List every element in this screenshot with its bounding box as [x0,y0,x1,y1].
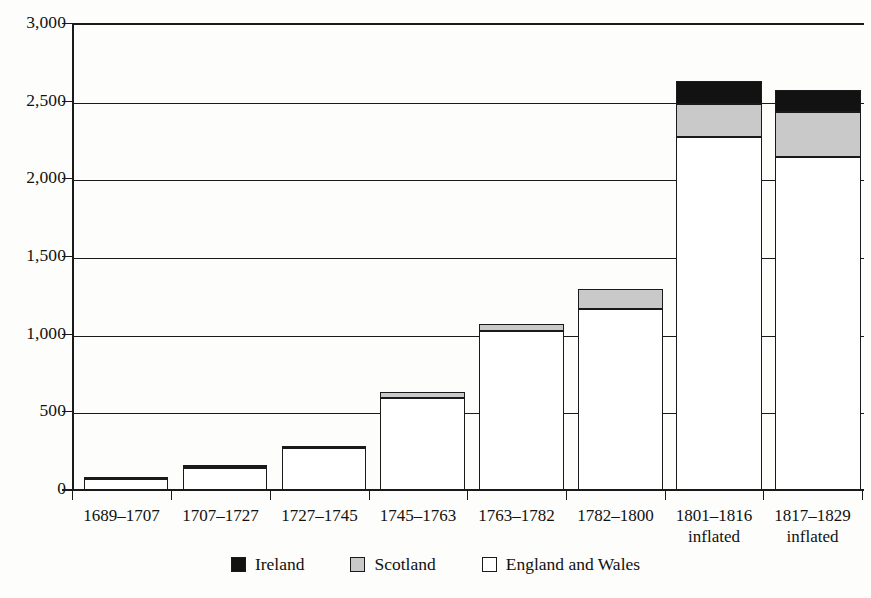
x-tick-label-1689-1707: 1689–1707 [72,505,171,526]
bar-segment-ireland [676,81,762,104]
legend-label-england-and-wales: England and Wales [506,556,640,574]
x-tick-label-1782-1800: 1782–1800 [566,505,665,526]
legend-item-ireland: Ireland [231,556,305,574]
x-tick-label-line1: 1763–1782 [478,506,555,525]
x-tick-label-line1: 1689–1707 [83,506,160,525]
bar-segment-ireland [775,90,861,112]
bar-segment-england-and-wales [380,398,465,491]
x-tick-label-line1: 1727–1745 [281,506,358,525]
y-tick-label-0: 0 [4,480,66,498]
bar-1782-1800 [578,289,663,491]
x-tick-label-line1: 1707–1727 [182,506,259,525]
chart-legend: Ireland Scotland England and Wales [0,556,871,574]
plot-area [72,23,864,491]
x-tick-mark-1 [171,489,172,500]
black-square-swatch-icon [231,557,246,572]
x-axis-line [62,489,864,491]
bar-1745-1763 [380,392,465,491]
x-tick-mark-8 [862,489,863,500]
bar-1727-1745 [282,446,366,491]
x-tick-label-1801-1816: 1801–1816 inflated [665,505,763,547]
bar-segment-england-and-wales [676,137,762,491]
y-tick-label-2000: 2,000 [4,170,66,188]
bar-segment-england-and-wales [479,331,564,491]
y-tick-label-1000: 1,000 [4,325,66,343]
bar-segment-scotland [578,289,663,309]
x-tick-mark-2 [270,489,271,500]
x-tick-label-line1: 1801–1816 [676,506,753,525]
legend-label-scotland: Scotland [374,556,435,574]
x-tick-label-1727-1745: 1727–1745 [270,505,369,526]
white-square-swatch-icon [482,557,497,572]
x-tick-label-line2: inflated [665,526,763,547]
x-tick-mark-5 [566,489,567,500]
bar-segment-england-and-wales [183,468,267,491]
x-tick-mark-6 [665,489,666,500]
bar-segment-ireland [183,465,267,467]
stacked-bar-chart: 3,000 2,500 2,000 1,500 1,000 500 0 [0,0,871,598]
x-tick-mark-0 [72,489,73,500]
bar-segment-scotland [84,477,168,479]
x-tick-mark-4 [467,489,468,500]
legend-label-ireland: Ireland [255,556,305,574]
x-tick-label-line1: 1782–1800 [577,506,654,525]
bar-1817-1829-inflated [775,90,861,491]
bar-segment-england-and-wales [578,309,663,492]
x-tick-label-line2: inflated [763,526,862,547]
bar-segment-scotland [380,392,465,398]
bar-1707-1727 [183,466,267,491]
bar-segment-scotland [282,446,366,448]
bar-segment-england-and-wales [282,448,366,492]
y-axis-tick-labels: 3,000 2,500 2,000 1,500 1,000 500 0 [0,0,66,598]
bar-segment-scotland [479,324,564,331]
x-tick-mark-7 [763,489,764,500]
y-tick-label-3000: 3,000 [4,14,66,32]
x-tick-label-1745-1763: 1745–1763 [369,505,467,526]
bar-segment-england-and-wales [775,157,861,491]
bar-segment-scotland [775,112,861,157]
bar-segment-scotland [676,104,762,137]
y-tick-label-1500: 1,500 [4,247,66,265]
bar-1763-1782 [479,324,564,491]
y-tick-label-500: 500 [4,403,66,421]
legend-item-england-and-wales: England and Wales [482,556,640,574]
x-tick-label-line1: 1817–1829 [774,506,851,525]
legend-item-scotland: Scotland [350,556,435,574]
y-tick-label-2500: 2,500 [4,92,66,110]
x-tick-label-1763-1782: 1763–1782 [467,505,566,526]
x-tick-label-1707-1727: 1707–1727 [171,505,270,526]
x-tick-mark-3 [369,489,370,500]
bar-1801-1816-inflated [676,81,762,491]
x-tick-label-line1: 1745–1763 [380,506,457,525]
x-tick-label-1817-1829: 1817–1829 inflated [763,505,862,547]
gray-square-swatch-icon [350,557,365,572]
